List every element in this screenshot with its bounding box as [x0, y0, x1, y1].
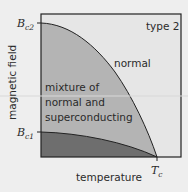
y-axis-label: magnetic field [6, 45, 18, 120]
mixed-label-line3: superconducting [45, 111, 133, 123]
x-axis-label: temperature [76, 171, 142, 183]
phase-diagram: Bc2 Bc1 Tc type 2 normal mixture of norm… [0, 0, 188, 192]
normal-label: normal [114, 57, 151, 69]
mixed-label-line2: normal and [45, 96, 105, 108]
mixed-label-line1: mixture of [45, 81, 99, 93]
tc-label: Tc [151, 164, 163, 179]
bc1-label: Bc1 [16, 126, 34, 141]
type-label: type 2 [146, 20, 179, 32]
bc2-label: Bc2 [16, 17, 34, 32]
